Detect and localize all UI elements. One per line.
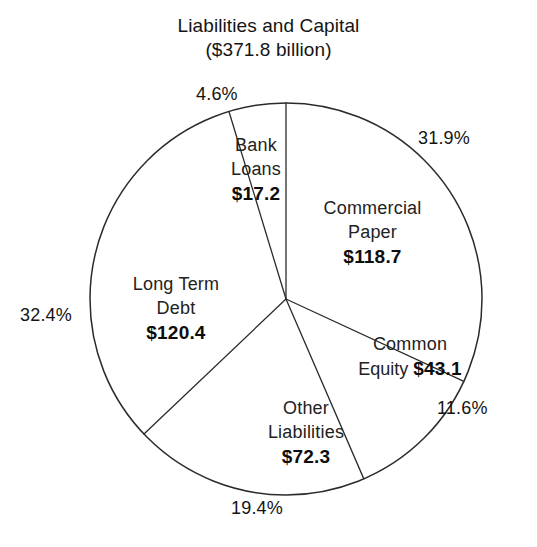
slice-name-long-term-debt-line-1: Long Term [113,272,239,296]
slice-name-common-equity-word-2: Equity [358,359,408,379]
slice-label-common-equity: Common Equity $43.1 [340,332,480,382]
slice-name-other-liabilities-line-2: Liabilities [250,420,362,444]
slice-value-bank-loans: $17.2 [211,181,301,206]
slice-name-other-liabilities-line-1: Other [250,396,362,420]
slice-value-long-term-debt: $120.4 [113,320,239,345]
slice-value-commercial-paper: $118.7 [310,244,435,269]
pct-label-bank-loans: 4.6% [196,84,238,105]
slice-name-bank-loans-line-2: Loans [211,157,301,181]
slice-label-long-term-debt: Long Term Debt $120.4 [113,272,239,346]
pct-label-long-term-debt: 32.4% [20,305,72,326]
slice-name-common-equity-line-1: Common [340,332,480,356]
pct-label-other-liabilities: 19.4% [231,498,283,519]
pie-chart: Liabilities and Capital ($371.8 billion)… [0,0,537,547]
slice-name-common-equity-line-2: Equity $43.1 [340,356,480,381]
pct-label-commercial-paper: 31.9% [418,128,470,149]
slice-value-other-liabilities: $72.3 [250,444,362,469]
slice-name-commercial-paper-line-2: Paper [310,220,435,244]
slice-label-commercial-paper: Commercial Paper $118.7 [310,196,435,270]
slice-value-common-equity: $43.1 [413,358,462,379]
pct-label-common-equity: 11.6% [437,398,488,419]
slice-label-other-liabilities: Other Liabilities $72.3 [250,396,362,470]
slice-name-bank-loans-line-1: Bank [211,133,301,157]
slice-name-commercial-paper-line-1: Commercial [310,196,435,220]
slice-name-long-term-debt-line-2: Debt [113,296,239,320]
slice-label-bank-loans: Bank Loans $17.2 [211,133,301,207]
